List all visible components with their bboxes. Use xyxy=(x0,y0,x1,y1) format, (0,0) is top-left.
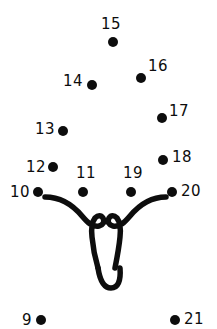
dot-label-21: 21 xyxy=(184,312,204,327)
puzzle-dot-12[interactable] xyxy=(48,162,58,172)
puzzle-dot-11[interactable] xyxy=(78,187,88,197)
figure-stroke-left-brow-and-ear xyxy=(45,197,104,268)
puzzle-dot-18[interactable] xyxy=(158,155,168,165)
puzzle-dot-21[interactable] xyxy=(170,315,180,325)
dot-label-16: 16 xyxy=(148,59,168,74)
puzzle-dot-20[interactable] xyxy=(167,187,177,197)
puzzle-dot-15[interactable] xyxy=(108,37,118,47)
dot-label-13: 13 xyxy=(35,122,55,137)
puzzle-dot-14[interactable] xyxy=(87,80,97,90)
dot-label-10: 10 xyxy=(10,185,30,200)
puzzle-dot-10[interactable] xyxy=(33,187,43,197)
puzzle-dot-13[interactable] xyxy=(58,126,68,136)
dot-label-11: 11 xyxy=(76,166,96,181)
puzzle-dot-16[interactable] xyxy=(136,73,146,83)
dot-label-15: 15 xyxy=(101,17,121,32)
dot-label-12: 12 xyxy=(26,160,46,175)
figure-stroke-trunk-bottom-u xyxy=(98,268,120,288)
dot-label-20: 20 xyxy=(181,184,201,199)
dot-label-17: 17 xyxy=(169,104,189,119)
dot-label-9: 9 xyxy=(22,313,32,328)
dot-label-14: 14 xyxy=(63,74,83,89)
figure-stroke-right-brow-and-ear xyxy=(108,197,166,268)
puzzle-dot-19[interactable] xyxy=(126,187,136,197)
dot-label-19: 19 xyxy=(123,166,143,181)
dot-label-18: 18 xyxy=(172,150,192,165)
puzzle-dot-9[interactable] xyxy=(36,315,46,325)
connect-the-dots-page: 9101112131415161718192021 xyxy=(0,0,217,329)
dot-markers-group xyxy=(33,37,180,325)
puzzle-dot-17[interactable] xyxy=(157,113,167,123)
elephant-figure-strokes xyxy=(45,197,166,288)
